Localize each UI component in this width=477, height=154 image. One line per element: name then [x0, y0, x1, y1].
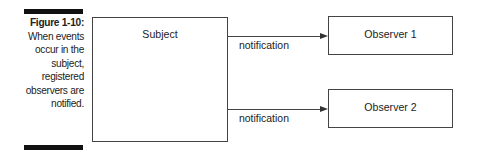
observer-1-label: Observer 1: [334, 28, 447, 40]
notification-label-1: notification: [239, 39, 289, 51]
caption-top-rule: [24, 9, 83, 14]
figure-caption-text: When events occur in the subject, regist…: [26, 30, 84, 110]
notification-arrow-2: [227, 109, 321, 110]
figure-caption: Figure 1-10: When events occur in the su…: [16, 16, 84, 111]
observer-2-label: Observer 2: [334, 101, 447, 113]
arrowhead-1-icon: [320, 33, 328, 39]
subject-label: Subject: [98, 28, 221, 40]
observer-1-box: Observer 1: [328, 16, 453, 55]
caption-bottom-rule: [24, 145, 83, 150]
subject-box: Subject: [92, 17, 228, 142]
observer-2-box: Observer 2: [328, 89, 453, 128]
notification-label-2: notification: [239, 112, 289, 124]
notification-arrow-1: [227, 36, 321, 37]
figure-label: Figure 1-10:: [16, 16, 84, 30]
arrowhead-2-icon: [320, 106, 328, 112]
